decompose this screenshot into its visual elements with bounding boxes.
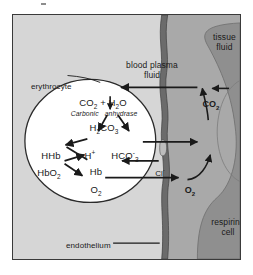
label-respiring-cell-line2: cell [211,228,241,238]
label-tissue-fluid-line2: fluid [213,43,236,53]
label-hb: Hb [90,167,102,178]
label-h2co3: H2CO3 [90,123,119,135]
label-h-plus: H+ [85,149,96,162]
scan-artifact-speck [41,3,46,5]
gas-exchange-figure: tissue fluid blood plasma fluid erythroc… [0,0,253,275]
label-o2-external: O2 [185,185,196,198]
label-tissue-fluid: tissue fluid [213,33,236,52]
label-o2-inside: O2 [90,185,101,197]
label-hco3-minus: HCO-3 [111,149,138,163]
label-co2-external: CO2 [202,99,219,112]
label-blood-plasma-line2: fluid [126,71,178,81]
label-hbo2: HbO2 [37,168,61,180]
label-chloride-ion: Cl- [155,167,165,179]
label-carbonic-anhydrase: Carbonic anhydrase [71,110,138,118]
label-respiring-cell: respiring cell [211,218,241,237]
label-hhb: HHb [41,151,60,162]
label-blood-plasma-fluid: blood plasma fluid [126,61,178,80]
label-co2-plus-h2o: CO2 + H2O [79,98,126,110]
diagram-artwork [13,15,240,259]
diagram-frame: tissue fluid blood plasma fluid erythroc… [12,14,241,260]
label-erythrocyte: erythrocyte [31,83,72,92]
label-endothelium: endothelium [66,242,111,251]
